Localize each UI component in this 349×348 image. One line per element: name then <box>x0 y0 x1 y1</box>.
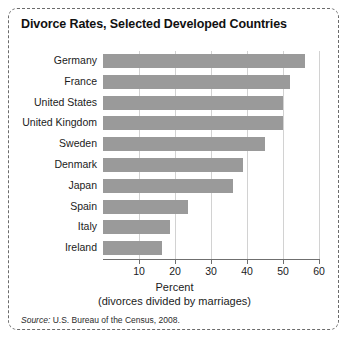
bar <box>103 241 162 255</box>
bar-category-label: Italy <box>78 219 97 234</box>
bar-row: France <box>103 72 319 93</box>
bar-category-label: Japan <box>68 178 97 193</box>
x-tick-label: 10 <box>124 265 154 277</box>
source-note: Source: U.S. Bureau of the Census, 2008. <box>21 315 180 325</box>
tick-mark-10 <box>139 260 140 264</box>
x-tick-label: 30 <box>196 265 226 277</box>
x-tick-label: 40 <box>232 265 262 277</box>
bar-row: Japan <box>103 176 319 197</box>
tick-mark-20 <box>175 260 176 264</box>
bar <box>103 54 305 68</box>
bar <box>103 75 290 89</box>
bar <box>103 96 283 110</box>
bar <box>103 116 283 130</box>
bar-row: Germany <box>103 51 319 72</box>
tick-mark-50 <box>283 260 284 264</box>
plot-area: GermanyFranceUnited StatesUnited Kingdom… <box>103 51 319 259</box>
bar-row: Ireland <box>103 238 319 259</box>
gridline-60 <box>319 51 320 259</box>
x-axis-sublabel: (divorces divided by marriages) <box>9 295 340 307</box>
bar-row: Denmark <box>103 155 319 176</box>
bar-row: Sweden <box>103 134 319 155</box>
bar-row: United States <box>103 93 319 114</box>
bar-row: Spain <box>103 197 319 218</box>
tick-mark-40 <box>247 260 248 264</box>
bar <box>103 158 243 172</box>
bar <box>103 179 233 193</box>
bar-category-label: Germany <box>54 53 97 68</box>
x-axis-label: Percent <box>9 281 340 293</box>
source-note-text: U.S. Bureau of the Census, 2008. <box>50 315 179 325</box>
bar-category-label: United Kingdom <box>22 115 97 130</box>
tick-mark-60 <box>319 260 320 264</box>
bar <box>103 200 188 214</box>
bar-category-label: Sweden <box>59 136 97 151</box>
figure-panel: Divorce Rates, Selected Developed Countr… <box>8 8 339 330</box>
bar-category-label: France <box>64 74 97 89</box>
x-tick-label: 20 <box>160 265 190 277</box>
bar-category-label: Spain <box>70 199 97 214</box>
source-note-prefix: Source: <box>21 315 50 325</box>
bar-category-label: Denmark <box>54 157 97 172</box>
bar-category-label: United States <box>34 95 97 110</box>
bar-row: Italy <box>103 217 319 238</box>
x-tick-label: 50 <box>268 265 298 277</box>
bar-category-label: Ireland <box>65 240 97 255</box>
chart-title: Divorce Rates, Selected Developed Countr… <box>21 17 287 31</box>
tick-mark-30 <box>211 260 212 264</box>
bar <box>103 220 170 234</box>
x-tick-label: 60 <box>304 265 334 277</box>
bar-row: United Kingdom <box>103 113 319 134</box>
bar <box>103 137 265 151</box>
